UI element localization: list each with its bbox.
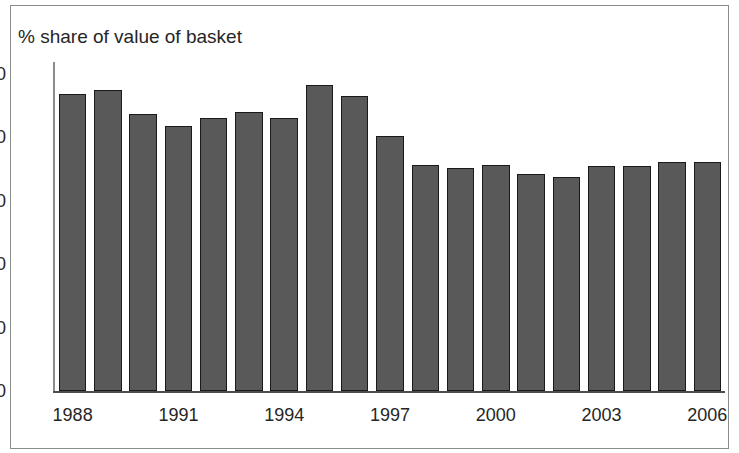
x-tick-label: 1994 bbox=[249, 405, 319, 425]
bar bbox=[623, 166, 651, 391]
x-tick-label: 1997 bbox=[355, 405, 425, 425]
bar bbox=[447, 168, 475, 391]
bar bbox=[306, 85, 334, 391]
bar bbox=[376, 136, 404, 391]
bar bbox=[517, 174, 545, 391]
bar bbox=[270, 118, 298, 391]
bar bbox=[235, 112, 263, 391]
bar bbox=[694, 162, 722, 392]
x-tick-label: 2006 bbox=[672, 405, 739, 425]
bar bbox=[412, 165, 440, 391]
bar bbox=[200, 118, 228, 391]
x-tick-label: 1991 bbox=[143, 405, 213, 425]
bar bbox=[341, 96, 369, 391]
bar bbox=[658, 162, 686, 392]
chart-figure: % share of value of basket 01020304050 1… bbox=[0, 0, 739, 453]
bar-series bbox=[0, 0, 739, 391]
x-tick-label: 2003 bbox=[567, 405, 637, 425]
x-tick-label: 2000 bbox=[461, 405, 531, 425]
bar bbox=[94, 90, 122, 391]
bar bbox=[588, 166, 616, 391]
bar bbox=[59, 94, 87, 391]
x-tick-label: 1988 bbox=[38, 405, 108, 425]
bar bbox=[129, 114, 157, 391]
bar bbox=[165, 126, 193, 391]
bar bbox=[553, 177, 581, 391]
bar bbox=[482, 165, 510, 391]
